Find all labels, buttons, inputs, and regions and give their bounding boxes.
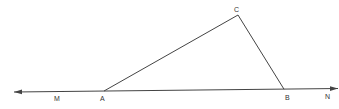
line-mn xyxy=(14,89,338,93)
arrow-left-icon xyxy=(14,90,22,95)
label-m: M xyxy=(54,95,60,102)
label-c: C xyxy=(234,6,239,13)
label-b: B xyxy=(285,94,290,101)
arrow-right-icon xyxy=(330,86,338,91)
label-a: A xyxy=(100,95,105,102)
label-n: N xyxy=(325,93,330,100)
triangle-diagram: M A C B N xyxy=(0,0,339,109)
segment-ac xyxy=(104,15,238,91)
segment-cb xyxy=(238,15,284,89)
